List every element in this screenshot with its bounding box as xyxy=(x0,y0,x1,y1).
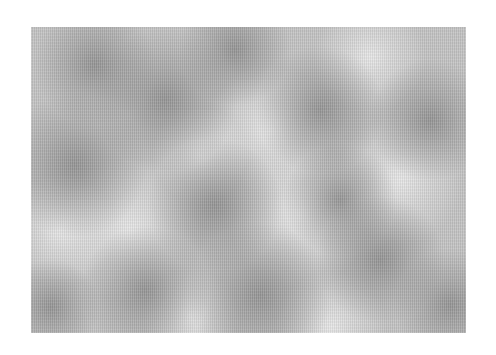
grain-overlay xyxy=(31,27,466,333)
cloud-noise-texture xyxy=(31,27,466,333)
